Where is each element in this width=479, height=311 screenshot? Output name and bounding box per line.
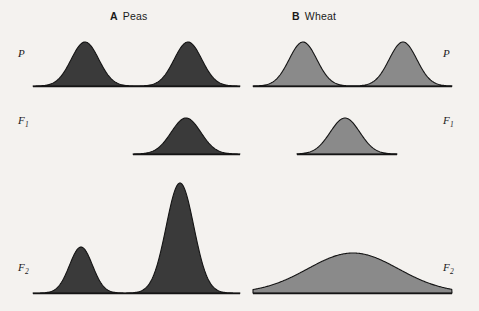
distribution-curve-wheat-f2: [253, 253, 452, 293]
distribution-curve-wheat-p: [253, 42, 452, 86]
distribution-curve-peas-f1: [133, 118, 240, 154]
distribution-curve-peas-p: [33, 42, 240, 86]
curves-layer: [33, 42, 452, 294]
distribution-curve-wheat-f1: [297, 118, 397, 154]
distribution-curve-peas-f2: [33, 183, 240, 293]
figure-root: APeas BWheat P F1 F2 P F1 F2: [0, 0, 479, 311]
distribution-curves-canvas: [0, 0, 479, 311]
